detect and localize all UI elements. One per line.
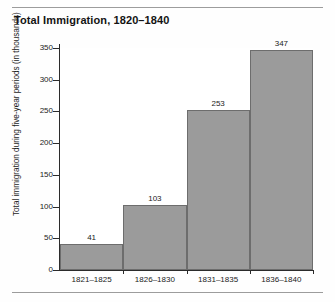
y-tick-mark (53, 207, 59, 208)
y-axis-title: Total immigration during five-year perio… (13, 9, 21, 219)
bar-value-label: 103 (123, 195, 186, 203)
bar (187, 110, 250, 270)
bar-value-label: 253 (187, 100, 250, 108)
y-tick-mark (53, 238, 59, 239)
chart-title: Total Immigration, 1820–1840 (14, 14, 169, 26)
y-tick-label-wrap: 100 (0, 203, 53, 211)
bar-value-label: 347 (250, 40, 313, 48)
top-divider-rule (12, 7, 323, 8)
x-tick-mark (187, 270, 188, 274)
x-axis-category-label: 1831–1835 (187, 276, 250, 284)
x-tick-mark (313, 270, 314, 274)
bar (123, 205, 186, 270)
y-tick-label: 50 (23, 234, 53, 242)
plot-area: 41103253347 (60, 48, 313, 270)
y-tick-label-wrap: 200 (0, 139, 53, 147)
y-tick-label: 0 (23, 266, 53, 274)
y-tick-mark (53, 111, 59, 112)
bar (60, 244, 123, 270)
y-tick-label: 250 (23, 107, 53, 115)
y-tick-mark (53, 175, 59, 176)
y-tick-mark (53, 48, 59, 49)
y-tick-label: 350 (23, 44, 53, 52)
x-tick-mark (250, 270, 251, 274)
chart-figure: Total Immigration, 1820–1840 05010015020… (0, 0, 335, 302)
y-tick-label-wrap: 300 (0, 76, 53, 84)
y-tick-mark (53, 143, 59, 144)
y-tick-label: 300 (23, 76, 53, 84)
y-tick-label-wrap: 150 (0, 171, 53, 179)
y-tick-label: 200 (23, 139, 53, 147)
y-tick-mark (53, 270, 59, 271)
y-tick-label-wrap: 0 (0, 266, 53, 274)
bar (250, 50, 313, 270)
y-tick-mark (53, 80, 59, 81)
x-axis-category-label: 1821–1825 (60, 276, 123, 284)
bar-value-label: 41 (60, 234, 123, 242)
bottom-divider-rule (12, 292, 323, 293)
y-tick-label-wrap: 250 (0, 107, 53, 115)
x-axis-category-label: 1836–1840 (250, 276, 313, 284)
y-tick-label: 150 (23, 171, 53, 179)
x-axis-category-label: 1826–1830 (123, 276, 186, 284)
y-tick-label-wrap: 50 (0, 234, 53, 242)
y-tick-label: 100 (23, 203, 53, 211)
x-tick-mark (123, 270, 124, 274)
y-tick-label-wrap: 350 (0, 44, 53, 52)
